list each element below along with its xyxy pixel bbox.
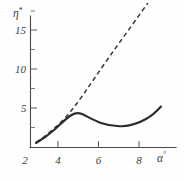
y-tick-label-10: 10 — [15, 63, 27, 75]
x-tick-label-2: 2 — [22, 154, 28, 166]
chart-figure: 15 10 5 2 4 6 8 η* α° — [0, 0, 184, 181]
x-tick-label-8: 8 — [136, 154, 142, 166]
solid-curve — [36, 107, 161, 144]
x-axis-superscript: ° — [163, 150, 166, 159]
y-tick-label-15: 15 — [15, 24, 27, 36]
dashed-curve — [36, 3, 148, 142]
y-axis-title: η* — [13, 6, 23, 20]
chart-plot-area: 15 10 5 2 4 6 8 η* α° — [0, 0, 184, 181]
x-axis-title: α° — [157, 150, 166, 164]
x-tick-label-4: 4 — [55, 154, 61, 166]
x-tick-label-6: 6 — [96, 154, 102, 166]
y-tick-label-5: 5 — [21, 102, 27, 114]
y-axis-superscript: * — [19, 6, 23, 15]
